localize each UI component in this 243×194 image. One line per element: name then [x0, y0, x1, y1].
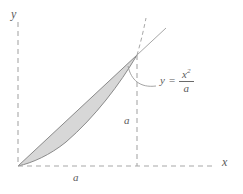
equation-leader-line: [128, 66, 156, 86]
figure-container: y x a a y = x2 a: [0, 0, 243, 194]
horizontal-extent-label-a: a: [73, 172, 79, 183]
equation-label: y = x2 a: [160, 68, 194, 94]
parabola-curve-extension: [137, 18, 146, 55]
equation-denominator: a: [181, 82, 193, 94]
equation-lhs: y: [160, 75, 165, 86]
equation-numerator: x2: [179, 68, 193, 81]
figure-canvas: [0, 0, 243, 194]
line-y-equals-x-extension: [137, 28, 166, 55]
equation-fraction: x2 a: [179, 68, 193, 94]
equation-equals-sign: =: [168, 75, 176, 86]
x-axis-label: x: [222, 156, 227, 168]
line-y-equals-x: [18, 55, 137, 166]
y-axis-label: y: [11, 8, 16, 20]
vertical-extent-label-a: a: [124, 115, 130, 126]
equation-numerator-exponent: 2: [187, 67, 191, 75]
